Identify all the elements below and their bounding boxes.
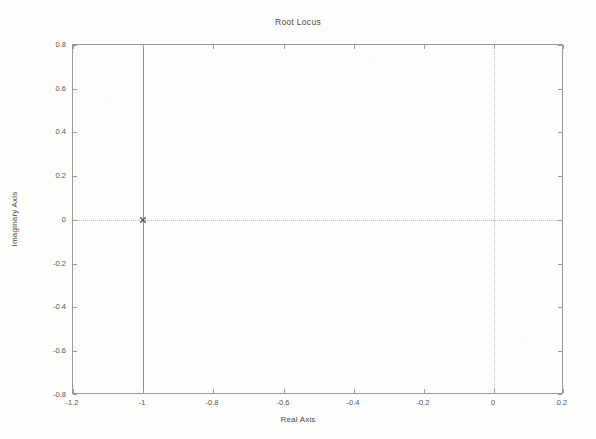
tick-x-6 (494, 389, 495, 393)
tick-x-top-2 (213, 45, 214, 49)
tick-x-4 (354, 389, 355, 393)
tick-x-top-1 (143, 45, 144, 49)
xtick-label-7: 0.2 (557, 398, 567, 407)
tick-y-right-0 (558, 45, 562, 46)
tick-x-3 (284, 389, 285, 393)
tick-x-0 (73, 389, 74, 393)
tick-x-5 (424, 389, 425, 393)
tick-y-8 (73, 394, 77, 395)
tick-y-4 (73, 220, 77, 221)
tick-y-1 (73, 89, 77, 90)
tick-y-0 (73, 45, 77, 46)
ytick-label-3: 0.2 (40, 171, 66, 180)
tick-y-right-5 (558, 264, 562, 265)
tick-x-top-3 (284, 45, 285, 49)
root-locus-figure: Root Locus (0, 0, 596, 439)
tick-y-right-4 (558, 220, 562, 221)
xtick-label-4: -0.4 (347, 398, 360, 407)
ytick-label-7: -0.6 (40, 346, 66, 355)
tick-x-top-6 (494, 45, 495, 49)
tick-y-right-6 (558, 307, 562, 308)
tick-x-top-4 (354, 45, 355, 49)
tick-x-top-5 (424, 45, 425, 49)
tick-y-6 (73, 307, 77, 308)
ytick-label-4: 0 (40, 215, 66, 224)
ytick-label-6: -0.4 (40, 302, 66, 311)
x-axis-label: Real Axis (0, 415, 596, 424)
ytick-label-1: 0.6 (40, 84, 66, 93)
open-loop-pole-marker (140, 217, 147, 224)
tick-y-right-3 (558, 176, 562, 177)
xtick-label-0: -1.2 (66, 398, 79, 407)
tick-x-top-7 (563, 45, 564, 49)
plot-area (72, 44, 563, 394)
tick-y-5 (73, 264, 77, 265)
xtick-label-2: -0.8 (206, 398, 219, 407)
tick-y-2 (73, 132, 77, 133)
xtick-label-5: -0.2 (417, 398, 430, 407)
y-axis-label: Imaginary Axis (10, 192, 19, 247)
xtick-label-3: -0.6 (277, 398, 290, 407)
tick-y-7 (73, 351, 77, 352)
tick-x-2 (213, 389, 214, 393)
page-title: Root Locus (0, 17, 596, 27)
ytick-label-2: 0.4 (40, 127, 66, 136)
ytick-label-8: -0.8 (40, 390, 66, 399)
tick-x-7 (563, 389, 564, 393)
tick-y-right-7 (558, 351, 562, 352)
tick-x-1 (143, 389, 144, 393)
xtick-label-6: 0 (491, 398, 495, 407)
tick-y-right-1 (558, 89, 562, 90)
tick-y-right-8 (558, 394, 562, 395)
tick-y-right-2 (558, 132, 562, 133)
ytick-label-0: 0.8 (40, 40, 66, 49)
gridline-x-zero (494, 45, 495, 393)
tick-y-3 (73, 176, 77, 177)
xtick-label-1: -1 (139, 398, 146, 407)
ytick-label-5: -0.2 (40, 259, 66, 268)
